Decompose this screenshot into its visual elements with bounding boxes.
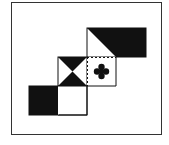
face-top-left xyxy=(87,28,116,57)
face-top-right xyxy=(116,28,146,57)
face-middle-right-clover xyxy=(87,57,116,86)
face-bottom-right xyxy=(58,86,87,115)
face-bottom-left xyxy=(29,86,58,115)
face-middle-left-hourglass xyxy=(58,57,87,86)
cube-net-diagram xyxy=(0,0,169,145)
